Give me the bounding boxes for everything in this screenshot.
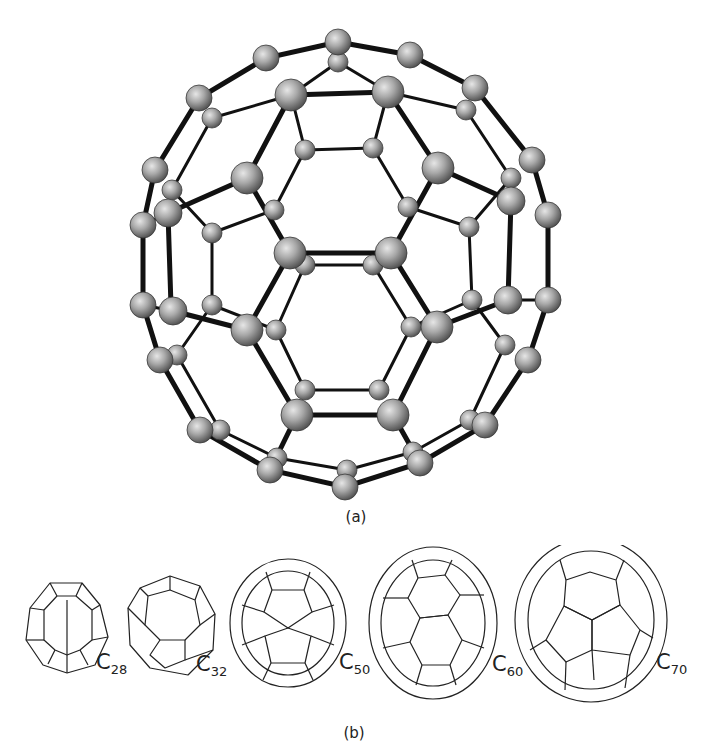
- panel-b-label: (b): [334, 724, 374, 742]
- cage-label-c28: C28: [96, 650, 127, 677]
- cage-c70: [515, 545, 667, 702]
- cage-c60: [369, 547, 497, 699]
- panel-a-label: (a): [336, 508, 376, 526]
- c60-ball-and-stick-model: [0, 0, 712, 540]
- cage-label-c50: C50: [339, 650, 370, 677]
- cage-c50: [230, 559, 346, 687]
- fullerene-cages-row: [0, 545, 712, 725]
- cage-label-c60: C60: [492, 652, 523, 679]
- cage-label-c70: C70: [656, 650, 687, 677]
- cage-label-c32: C32: [196, 652, 227, 679]
